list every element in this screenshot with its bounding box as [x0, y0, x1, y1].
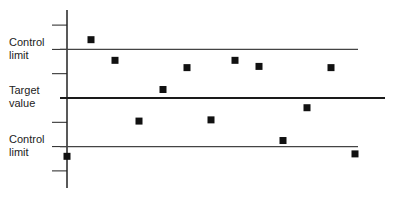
data-point — [280, 137, 287, 144]
lower-control-limit-label: Control limit — [9, 133, 44, 159]
data-point — [328, 64, 335, 71]
data-point — [184, 64, 191, 71]
data-point — [208, 116, 215, 123]
data-point — [256, 63, 263, 70]
data-point — [112, 57, 119, 64]
data-point — [64, 153, 71, 160]
data-point — [88, 36, 95, 43]
data-point — [160, 86, 167, 93]
data-point — [352, 150, 359, 157]
upper-control-limit-label: Control limit — [9, 36, 44, 62]
target-value-label: Target value — [9, 84, 40, 110]
data-point — [136, 118, 143, 125]
data-point — [232, 57, 239, 64]
control-chart — [0, 0, 398, 200]
data-point — [304, 104, 311, 111]
